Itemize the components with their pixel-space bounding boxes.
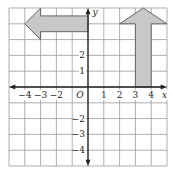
x-tick-label: 4 — [148, 90, 154, 100]
x-axis-label: x — [162, 90, 167, 100]
y-axis-arrow-up-icon — [86, 8, 91, 14]
y-tick-label: 2 — [79, 50, 85, 60]
y-axis-arrow-down-icon — [86, 160, 91, 166]
origin-label: O — [76, 90, 84, 100]
x-axis-arrow-right-icon — [161, 85, 167, 90]
x-tick-label: −4 — [18, 90, 32, 100]
x-axis-arrow-left-icon — [9, 85, 15, 90]
y-tick-label: −2 — [72, 114, 85, 124]
y-tick-label: 1 — [79, 66, 85, 76]
y-tick-label: −4 — [72, 145, 86, 155]
x-tick-label: 1 — [101, 90, 107, 100]
y-tick-label: −3 — [72, 129, 86, 139]
up-arrow-shape — [120, 8, 167, 87]
x-tick-label: 3 — [133, 90, 139, 100]
x-tick-label: −3 — [34, 90, 48, 100]
x-tick-label: 2 — [117, 90, 123, 100]
x-tick-label: −2 — [50, 90, 63, 100]
y-axis-label: y — [91, 7, 98, 17]
coordinate-grid: −4−3−2123421−2−3−4Oxy — [0, 0, 174, 178]
